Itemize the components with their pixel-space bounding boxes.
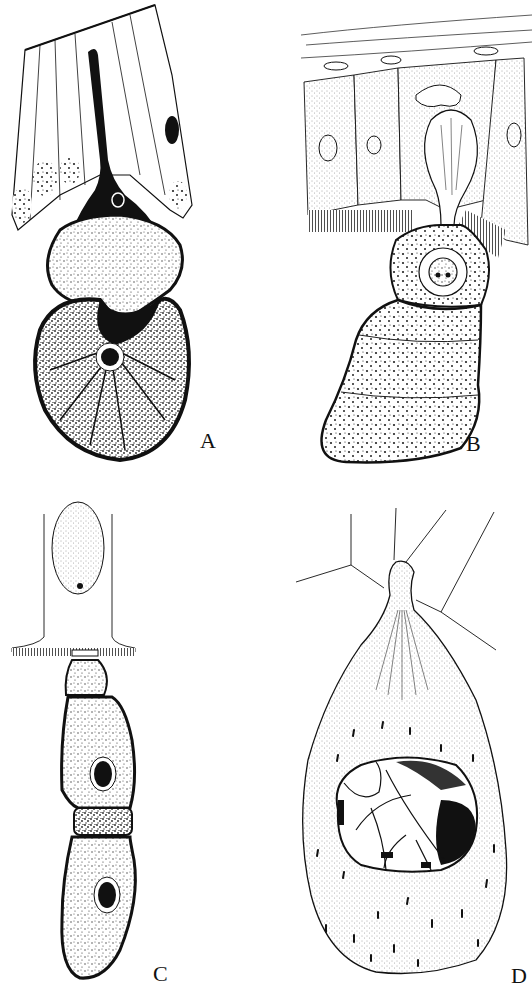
panel-d-illustration: [266, 500, 532, 1001]
panel-b: B: [266, 0, 532, 470]
panel-label-d: D: [511, 965, 527, 987]
panel-label-c: C: [153, 963, 168, 985]
panel-c: C: [0, 500, 266, 1001]
panel-label-b: B: [466, 433, 481, 455]
panel-b-illustration: [266, 0, 532, 470]
panel-a-illustration: [0, 0, 266, 470]
panel-label-a: A: [200, 430, 216, 452]
panel-c-illustration: [0, 500, 266, 1001]
panel-d: D: [266, 500, 532, 1001]
panel-a: A: [0, 0, 266, 470]
